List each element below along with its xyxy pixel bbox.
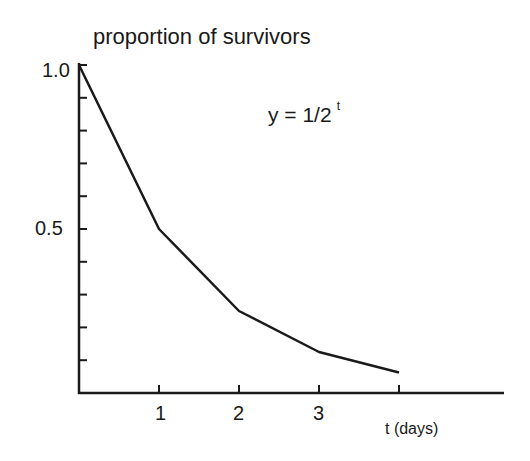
equation-base: y = 1/2 [268,103,332,126]
survivors-chart: proportion of survivors y = 1/2t 1.0 0.5… [0,0,530,461]
x-tick-label-3: 3 [313,402,324,425]
equation-annotation: y = 1/2t [268,103,340,127]
plot-area [0,0,530,461]
y-tick-label-1: 1.0 [42,59,70,82]
y-tick-label-0-5: 0.5 [35,217,63,240]
x-axis-label: t (days) [385,420,438,438]
decay-curve [79,65,399,373]
chart-title: proportion of survivors [93,24,311,50]
equation-exponent: t [337,99,340,113]
x-tick-label-1: 1 [155,402,166,425]
x-tick-label-2: 2 [233,402,244,425]
